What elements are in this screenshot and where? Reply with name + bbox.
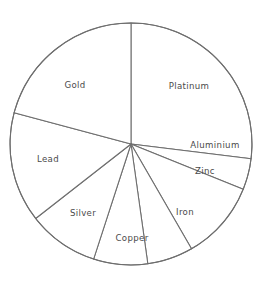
pie-slice-label-aluminium: Aluminium [190, 141, 239, 150]
pie-slice-label-iron: Iron [176, 208, 194, 217]
pie-slice-platinum[interactable] [131, 23, 252, 159]
pie-slice-label-zinc: Zinc [195, 167, 215, 176]
pie-slice-label-silver: Silver [70, 209, 96, 218]
pie-chart-figure: PlatinumAluminiumZincIronCopperSilverLea… [0, 0, 266, 286]
pie-slice-label-gold: Gold [64, 81, 85, 90]
pie-slice-label-platinum: Platinum [169, 82, 210, 91]
pie-slice-label-lead: Lead [37, 155, 59, 164]
pie-slice-label-copper: Copper [115, 234, 148, 243]
